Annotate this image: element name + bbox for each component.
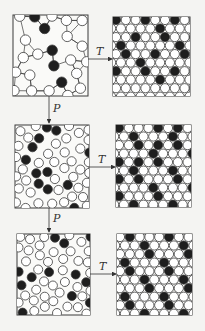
empty-particle [126,92,135,101]
filled-particle [125,301,134,310]
transform-label-2: T [98,153,107,166]
empty-particle [144,158,153,167]
empty-particle [164,284,173,293]
empty-particle [165,58,174,67]
empty-particle [144,209,153,218]
empty-particle [115,318,124,327]
empty-particle [111,101,120,110]
filled-particle [156,75,165,84]
empty-particle [174,267,183,276]
empty-particle [144,175,153,184]
empty-particle [107,24,116,33]
empty-particle [14,141,23,150]
empty-particle [110,149,119,158]
filled-particle [140,275,149,284]
empty-particle [107,75,116,84]
empty-particle [185,92,194,101]
empty-particle [160,275,169,284]
filled-particle [21,155,30,164]
empty-particle [155,318,164,327]
empty-particle [74,183,83,192]
empty-particle [165,92,174,101]
filled-particle [170,67,179,76]
empty-particle [107,41,116,50]
empty-particle [149,166,158,175]
empty-particle [144,192,153,201]
empty-particle [106,232,115,241]
empty-particle [82,309,91,318]
panel-stage-1-disordered [9,11,92,101]
empty-particle [194,318,203,327]
empty-particle [66,55,76,65]
empty-particle [141,33,150,42]
empty-particle [178,132,187,141]
filled-particle [190,33,199,42]
filled-particle [51,233,60,242]
empty-particle [73,303,82,312]
empty-particle [34,199,43,208]
filled-particle [160,258,169,267]
empty-particle [48,281,57,290]
empty-particle [170,50,179,59]
empty-particle [184,267,193,276]
empty-particle [189,292,198,301]
empty-particle [198,149,205,158]
empty-particle [144,141,153,150]
filled-particle [179,241,188,250]
empty-particle [179,292,188,301]
empty-particle [190,101,199,110]
filled-particle [168,166,177,175]
empty-particle [105,123,114,132]
empty-particle [119,200,128,209]
filled-particle [179,309,188,318]
filled-particle [121,50,130,59]
filled-particle [129,200,138,209]
empty-particle [50,174,59,183]
empty-particle [156,41,165,50]
empty-particle [190,84,199,93]
transform-label-3: T [99,260,108,273]
empty-particle [82,57,92,67]
empty-particle [129,149,138,158]
filled-particle [18,308,27,317]
empty-particle [136,41,145,50]
empty-particle [60,163,69,172]
filled-particle [179,275,188,284]
empty-particle [173,158,182,167]
empty-particle [14,243,23,252]
filled-particle [193,192,202,201]
empty-particle [165,75,174,84]
empty-particle [111,241,120,250]
empty-particle [82,201,91,210]
empty-particle [134,192,143,201]
empty-particle [146,58,155,67]
empty-particle [168,183,177,192]
empty-particle [146,24,155,33]
empty-particle [106,301,115,310]
empty-particle [183,192,192,201]
filled-particle [145,318,154,327]
transform-label-1: T [96,45,105,58]
filled-particle [35,134,44,143]
filled-particle [34,179,43,188]
empty-particle [188,166,197,175]
empty-particle [102,67,111,76]
empty-particle [44,257,53,266]
filled-particle [173,209,182,218]
empty-particle [105,209,114,218]
empty-particle [76,144,85,153]
empty-particle [77,237,86,246]
empty-particle [185,58,194,67]
empty-particle [131,84,140,93]
empty-particle [47,11,57,21]
empty-particle [139,132,148,141]
filled-particle [184,284,193,293]
empty-particle [198,132,205,141]
empty-particle [150,275,159,284]
empty-particle [74,128,83,137]
empty-particle [189,309,198,318]
filled-particle [154,158,163,167]
empty-particle [151,84,160,93]
empty-particle [116,24,125,33]
empty-particle [121,101,130,110]
